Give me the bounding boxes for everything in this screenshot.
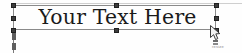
resize-handle-middle-right[interactable] (214, 16, 219, 21)
cursor-caption-label: resize (212, 44, 224, 49)
text-box-content[interactable]: Your Text Here (14, 4, 221, 31)
text-object-editing-canvas: Your Text Here resize (0, 0, 242, 53)
first-line-indent-marker-icon[interactable] (12, 33, 16, 40)
resize-handle-top-left[interactable] (11, 3, 16, 8)
resize-handle-bottom-middle[interactable] (114, 28, 119, 33)
selected-text-box[interactable]: Your Text Here (13, 5, 216, 30)
resize-handle-top-middle[interactable] (114, 3, 119, 8)
resize-handle-top-right[interactable] (214, 3, 219, 8)
left-indent-marker-icon[interactable] (12, 43, 16, 50)
resize-handle-middle-left[interactable] (11, 16, 16, 21)
resize-handle-bottom-right[interactable] (214, 28, 219, 33)
